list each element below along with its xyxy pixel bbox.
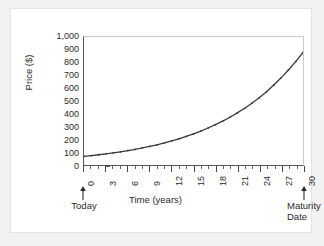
annotation-maturity-label: Maturity Date — [287, 201, 321, 222]
x-axis-tick-mark-minor — [179, 166, 180, 169]
x-axis-tick-mark-major — [216, 166, 217, 172]
y-axis-tick-label: 800 — [39, 58, 79, 67]
x-axis-tick-mark-minor — [267, 166, 268, 169]
x-axis-tick-mark-major — [282, 166, 283, 172]
x-axis-tick-mark-minor — [297, 166, 298, 169]
x-axis-tick-label: 6 — [131, 181, 140, 186]
x-axis-tick-label: 3 — [109, 181, 118, 186]
x-axis-tick-label: 12 — [175, 176, 184, 186]
x-axis-tick-mark-major — [238, 166, 239, 172]
x-axis-tick-mark-minor — [186, 166, 187, 169]
x-axis-tick-mark-minor — [135, 166, 136, 169]
x-axis-tick-label: 24 — [263, 176, 272, 186]
x-axis-tick-mark-major — [83, 166, 84, 172]
y-axis-tick-label: 600 — [39, 84, 79, 93]
x-axis-title: Time (years) — [129, 194, 182, 205]
x-axis-tick-mark-major — [105, 166, 106, 172]
x-axis-tick-mark-minor — [223, 166, 224, 169]
x-axis-tick-mark-major — [171, 166, 172, 172]
x-axis-tick-label: 9 — [153, 181, 162, 186]
x-axis-tick-label: 15 — [197, 176, 206, 186]
x-axis-tick-mark-minor — [289, 166, 290, 169]
y-axis-tick-label: 0 — [39, 162, 79, 171]
x-axis-tick-mark-minor — [98, 166, 99, 169]
x-axis-tick-mark-minor — [90, 166, 91, 169]
x-axis-tick-mark-major — [304, 166, 305, 172]
plot-area — [83, 36, 304, 166]
x-axis-tick-mark-minor — [164, 166, 165, 169]
price-curve — [84, 37, 303, 165]
x-axis-tick-mark-major — [260, 166, 261, 172]
x-axis-tick-mark-minor — [157, 166, 158, 169]
x-axis-tick-mark-minor — [112, 166, 113, 169]
up-arrow-icon — [298, 185, 310, 201]
x-axis-tick-mark-minor — [275, 166, 276, 169]
y-axis-title: Price ($) — [23, 38, 34, 108]
y-axis-tick-label: 700 — [39, 71, 79, 80]
y-axis-tick-label: 1,000 — [39, 32, 79, 41]
y-axis-tick-label: 500 — [39, 97, 79, 106]
x-axis-tick-mark-minor — [201, 166, 202, 169]
y-axis-tick-label: 100 — [39, 149, 79, 158]
x-axis-tick-mark-major — [127, 166, 128, 172]
x-axis-tick-mark-minor — [120, 166, 121, 169]
y-axis-tick-labels: 01002003004005006007008009001,000 — [37, 36, 79, 166]
x-axis-tick-labels: 036912151821242730 — [83, 172, 304, 190]
x-axis-tick-mark-major — [194, 166, 195, 172]
y-axis-tick-label: 300 — [39, 123, 79, 132]
up-arrow-icon — [77, 185, 89, 201]
x-axis-tick-mark-minor — [208, 166, 209, 169]
x-axis-tick-label: 21 — [241, 176, 250, 186]
annotation-today-label: Today — [61, 201, 107, 212]
y-axis-tick-label: 200 — [39, 136, 79, 145]
x-axis-tick-mark-minor — [230, 166, 231, 169]
figure-panel: Price ($) 01002003004005006007008009001,… — [10, 8, 312, 233]
x-axis-tick-label: 18 — [219, 176, 228, 186]
x-axis-tick-mark-minor — [252, 166, 253, 169]
y-axis-tick-label: 400 — [39, 110, 79, 119]
x-axis-tick-label: 27 — [285, 176, 294, 186]
x-axis-tick-mark-minor — [245, 166, 246, 169]
x-axis-tick-mark-major — [149, 166, 150, 172]
y-axis-tick-label: 900 — [39, 45, 79, 54]
x-axis-tick-mark-minor — [142, 166, 143, 169]
